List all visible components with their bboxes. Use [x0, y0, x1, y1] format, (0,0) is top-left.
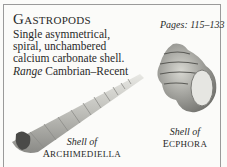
caption-archimediella: Shell of ARCHIMEDIELLA — [42, 136, 122, 160]
caption-ecphora: Shell of ECPHORA — [150, 126, 220, 150]
description: Single asymmetrical, spiral, unchambered… — [13, 28, 138, 77]
conical-spiral-shell-icon — [148, 40, 223, 115]
page-title: GASTROPODS — [13, 11, 91, 28]
page-reference: Pages: 115–133 — [160, 19, 225, 30]
